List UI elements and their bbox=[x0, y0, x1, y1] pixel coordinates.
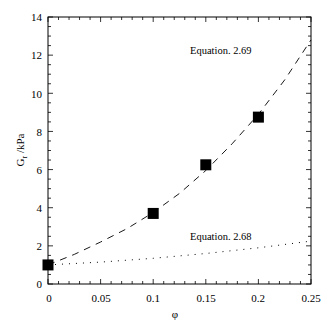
data-point-marker bbox=[148, 208, 159, 219]
data-point-marker bbox=[253, 112, 264, 123]
plot-frame bbox=[48, 17, 311, 284]
x-tick-0.2: 0.2 bbox=[251, 292, 265, 304]
data-point-marker bbox=[43, 259, 54, 270]
y-tick-12: 12 bbox=[31, 49, 42, 61]
x-tick-labels: 0 0.05 0.1 0.15 0.2 0.25 bbox=[46, 292, 321, 304]
x-tick-0.15: 0.15 bbox=[196, 292, 216, 304]
x-axis-label: φ bbox=[172, 308, 178, 320]
x-tick-0.1: 0.1 bbox=[146, 292, 160, 304]
y-tick-6: 6 bbox=[37, 164, 43, 176]
equation-2-69-curve bbox=[48, 40, 311, 265]
equation-2-68-annotation: Equation. 2.68 bbox=[190, 231, 252, 242]
y-tick-8: 8 bbox=[37, 126, 43, 138]
x-tick-0.05: 0.05 bbox=[91, 292, 111, 304]
y-tick-labels: 0 2 4 6 8 10 12 14 bbox=[31, 11, 43, 290]
y-tick-2: 2 bbox=[37, 240, 43, 252]
axis-ticks bbox=[48, 17, 311, 284]
y-tick-0: 0 bbox=[37, 278, 43, 290]
x-tick-0.25: 0.25 bbox=[301, 292, 321, 304]
y-tick-14: 14 bbox=[31, 11, 43, 23]
equation-2-68-curve bbox=[48, 241, 311, 265]
data-markers bbox=[43, 112, 264, 271]
y-tick-10: 10 bbox=[31, 88, 43, 100]
x-tick-0: 0 bbox=[46, 292, 52, 304]
equation-2-69-annotation: Equation. 2.69 bbox=[190, 45, 252, 56]
chart: 0 2 4 6 8 10 12 14 0 0.05 0.1 0.15 0.2 0… bbox=[0, 0, 333, 333]
data-point-marker bbox=[200, 159, 211, 170]
y-tick-4: 4 bbox=[37, 202, 43, 214]
y-axis-label: Gr /kPa bbox=[14, 133, 29, 166]
